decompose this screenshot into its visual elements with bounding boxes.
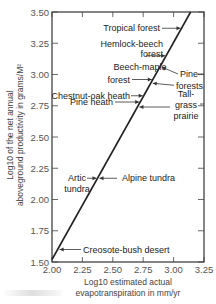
regression-line xyxy=(52,12,191,260)
label-pine-heath: Pine heath xyxy=(70,97,113,107)
arrowhead-icon xyxy=(100,176,104,180)
y-tick-label: 1.75 xyxy=(31,225,50,236)
arrowhead-icon xyxy=(139,105,143,109)
productivity-chart: 2.002.252.502.753.003.251.501.752.002.25… xyxy=(0,0,216,304)
y-tick-label: 2.25 xyxy=(31,163,50,174)
x-tick-label: 2.50 xyxy=(104,264,123,275)
y-tick-label: 3.25 xyxy=(31,38,50,49)
x-axis-title-line1: Log10 estimated actual xyxy=(84,277,172,287)
x-tick-label: 2.25 xyxy=(73,264,92,275)
label-pine-forests: Pine xyxy=(180,69,198,79)
y-tick-label: 3.50 xyxy=(31,7,50,18)
label-hemlock-beech-forest: forest xyxy=(140,49,163,59)
y-tick-label: 2.00 xyxy=(31,194,50,205)
y-tick-label: 1.50 xyxy=(31,257,50,268)
label-hemlock-beech-forest: Hemlock-beech xyxy=(100,39,163,49)
x-tick-label: 2.75 xyxy=(134,264,153,275)
label-beech-maple-forest: Beech-maple xyxy=(113,62,166,72)
label-artic-tundra: tundra xyxy=(64,184,90,194)
label-alpine-tundra: Alpine tundra xyxy=(122,173,175,183)
x-tick-label: 3.00 xyxy=(164,264,183,275)
label-beech-maple-forest: forest xyxy=(107,75,130,85)
label-tropical-forest: Tropical forest xyxy=(103,23,160,33)
label-artic-tundra: Artic xyxy=(68,173,87,183)
label-creosote-bush-desert: Creosote-bush desert xyxy=(83,245,170,255)
y-tick-label: 3.00 xyxy=(31,69,50,80)
label-tall-grass-prairie: prairie xyxy=(173,111,198,121)
label-tall-grass-prairie: grass xyxy=(175,100,198,110)
y-tick-label: 2.75 xyxy=(31,100,50,111)
x-tick-label: 3.25 xyxy=(195,264,214,275)
y-axis-title-line1: Log10 of the net annual xyxy=(5,90,15,179)
arrowhead-icon xyxy=(153,82,157,86)
x-axis-title-line2: evapotranspiration in mm/yr xyxy=(76,288,181,298)
plot-area-border xyxy=(52,12,204,262)
y-axis-title-line2: aboveground productivity in grams/M² xyxy=(15,64,25,206)
label-tall-grass-prairie: Tall- xyxy=(178,89,195,99)
y-tick-label: 2.50 xyxy=(31,132,50,143)
arrowhead-icon xyxy=(60,248,64,252)
